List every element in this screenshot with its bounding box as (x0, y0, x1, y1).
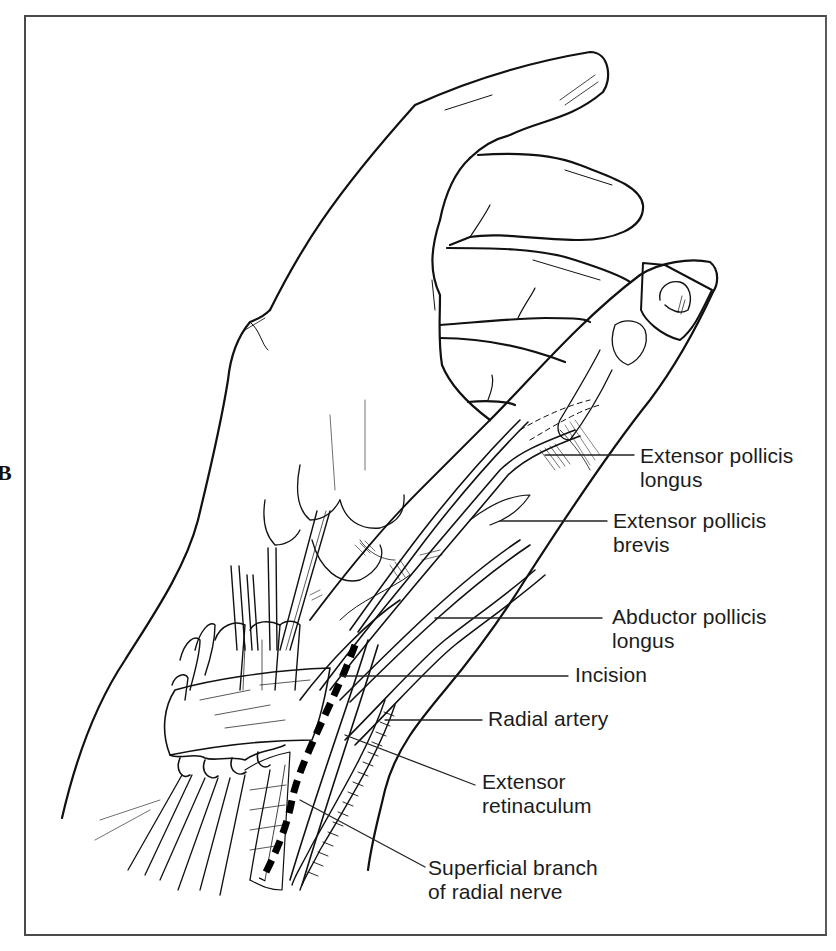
label-line: Extensor pollicis (613, 509, 766, 533)
label-line: Incision (575, 663, 647, 687)
label-line: longus (612, 629, 767, 653)
label-extensor-pollicis-brevis: Extensor pollicis brevis (613, 509, 766, 557)
little-finger (440, 338, 565, 405)
label-extensor-retinaculum: Extensor retinaculum (482, 770, 592, 818)
label-line: Radial artery (488, 707, 608, 731)
leader-extensor-retinaculum (345, 735, 475, 785)
ring-finger (440, 248, 630, 325)
label-incision: Incision (575, 663, 647, 687)
radial-artery-vessel (292, 700, 395, 890)
label-superficial-branch-radial-nerve: Superficial branch of radial nerve (428, 856, 598, 904)
carpal-bones (264, 400, 404, 581)
label-line: retinaculum (482, 794, 592, 818)
label-line: Abductor pollicis (612, 605, 767, 629)
hand-outline (62, 220, 490, 818)
label-line: longus (640, 468, 793, 492)
forearm-tendons (95, 765, 285, 895)
label-radial-artery: Radial artery (488, 707, 608, 731)
label-line: Superficial branch (428, 856, 598, 880)
thumb-joint-detail (520, 321, 646, 470)
label-line: Extensor (482, 770, 592, 794)
finger-extensor-tendons (231, 511, 330, 650)
label-line: Extensor pollicis (640, 444, 793, 468)
middle-finger (450, 154, 643, 245)
index-finger (270, 52, 608, 310)
label-line: of radial nerve (428, 880, 598, 904)
label-extensor-pollicis-longus: Extensor pollicis longus (640, 444, 793, 492)
label-line: brevis (613, 533, 766, 557)
label-abductor-pollicis-longus: Abductor pollicis longus (612, 605, 767, 653)
